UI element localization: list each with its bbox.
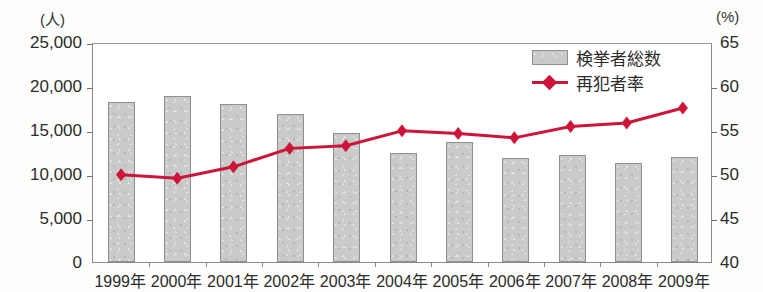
line-marker-2006年 bbox=[509, 131, 519, 144]
bar-2004年 bbox=[390, 153, 417, 262]
bar-2001年 bbox=[220, 104, 247, 262]
right-axis-unit-label: (%) bbox=[716, 8, 739, 25]
x-label-2004年: 2004年 bbox=[374, 268, 430, 292]
left-tick-label: 10,000 bbox=[30, 166, 82, 183]
left-tick-label: 15,000 bbox=[30, 122, 82, 139]
line-marker-2005年 bbox=[453, 127, 463, 140]
bar-2008年 bbox=[615, 163, 642, 262]
bar-swatch-icon bbox=[532, 50, 568, 65]
legend-label-bar: 検挙者総数 bbox=[576, 45, 661, 70]
legend-label-line: 再犯者率 bbox=[576, 70, 644, 95]
right-tick-label: 50 bbox=[720, 166, 739, 183]
left-tickmark bbox=[87, 44, 93, 45]
legend-item-bar: 検挙者総数 bbox=[532, 45, 692, 70]
left-tick-label: 25,000 bbox=[30, 34, 82, 51]
bar-2000年 bbox=[164, 96, 191, 262]
right-tickmark bbox=[711, 132, 717, 133]
left-tickmark bbox=[87, 220, 93, 221]
bar-2002年 bbox=[277, 114, 304, 262]
x-label-2007年: 2007年 bbox=[543, 268, 599, 292]
x-tickmark bbox=[206, 262, 207, 267]
x-tickmark bbox=[488, 262, 489, 267]
line-marker-2009年 bbox=[678, 102, 688, 115]
x-label-2003年: 2003年 bbox=[317, 268, 373, 292]
x-label-2008年: 2008年 bbox=[599, 268, 655, 292]
x-tickmark bbox=[657, 262, 658, 267]
chart-legend: 検挙者総数 再犯者率 bbox=[532, 45, 692, 95]
left-tick-label: 0 bbox=[73, 254, 82, 271]
bar-2003年 bbox=[333, 133, 360, 262]
left-tickmark bbox=[87, 132, 93, 133]
chart-container: (人) (%) 05,00010,00015,00020,00025,000 4… bbox=[0, 0, 763, 292]
x-label-2002年: 2002年 bbox=[261, 268, 317, 292]
right-tick-label: 60 bbox=[720, 78, 739, 95]
x-label-2006年: 2006年 bbox=[487, 268, 543, 292]
line-marker-2004年 bbox=[397, 124, 407, 137]
x-label-2009年: 2009年 bbox=[656, 268, 712, 292]
bar-2006年 bbox=[502, 158, 529, 262]
x-tickmark bbox=[375, 262, 376, 267]
left-tickmark bbox=[87, 88, 93, 89]
x-tickmark bbox=[262, 262, 263, 267]
left-tickmark bbox=[87, 176, 93, 177]
right-tick-label: 55 bbox=[720, 122, 739, 139]
right-tick-label: 40 bbox=[720, 254, 739, 271]
x-label-2001年: 2001年 bbox=[205, 268, 261, 292]
legend-item-line: 再犯者率 bbox=[532, 70, 692, 95]
left-axis-unit-label: (人) bbox=[40, 8, 65, 29]
bar-2009年 bbox=[671, 157, 698, 262]
right-tick-label: 45 bbox=[720, 210, 739, 227]
bar-1999年 bbox=[108, 102, 135, 262]
x-tickmark bbox=[544, 262, 545, 267]
line-diamond-swatch-icon bbox=[532, 75, 568, 90]
x-tickmark bbox=[600, 262, 601, 267]
right-tickmark bbox=[711, 220, 717, 221]
x-tickmark bbox=[318, 262, 319, 267]
left-tick-label: 20,000 bbox=[30, 78, 82, 95]
right-tickmark bbox=[711, 88, 717, 89]
line-marker-2007年 bbox=[565, 120, 575, 133]
right-tick-label: 65 bbox=[720, 34, 739, 51]
bar-2007年 bbox=[559, 155, 586, 262]
right-tickmark bbox=[711, 176, 717, 177]
x-label-1999年: 1999年 bbox=[92, 268, 148, 292]
line-marker-2008年 bbox=[622, 116, 632, 129]
x-tickmark bbox=[149, 262, 150, 267]
left-tick-label: 5,000 bbox=[39, 210, 82, 227]
x-label-2005年: 2005年 bbox=[430, 268, 486, 292]
x-tickmark bbox=[431, 262, 432, 267]
bar-2005年 bbox=[446, 142, 473, 262]
x-label-2000年: 2000年 bbox=[148, 268, 204, 292]
